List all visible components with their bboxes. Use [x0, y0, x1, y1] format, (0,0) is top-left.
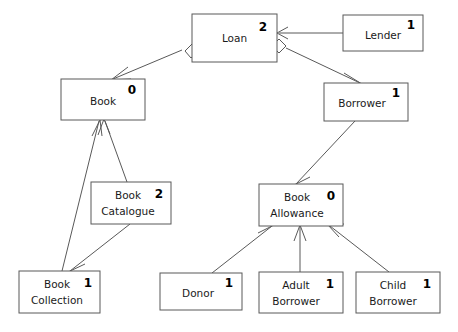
class-name-adult-borrower-line1: Adult [282, 279, 309, 291]
class-name-donor: Donor [182, 287, 215, 299]
edge-donor-book-allowance [212, 219, 274, 273]
edge-book-catalogue-book-collection [68, 224, 130, 278]
class-node-book-collection[interactable]: Book Collection 1 [19, 271, 100, 313]
edge-child-borrower-book-allowance [328, 224, 389, 272]
class-name-borrower: Borrower [338, 97, 386, 109]
uml-class-diagram: Loan 2 Lender 1 Book 0 Borrower 1 [0, 0, 458, 332]
edge-loan-book [111, 44, 198, 80]
edge-lender-loan [277, 27, 343, 39]
class-name-adult-borrower-line2: Borrower [272, 295, 320, 307]
class-node-child-borrower[interactable]: Child Borrower 1 [356, 272, 440, 313]
edge-adult-borrower-book-allowance [294, 225, 306, 272]
class-name-book-allowance-line1: Book [284, 191, 311, 203]
multiplicity-donor: 1 [225, 276, 233, 290]
class-name-book-catalogue-line2: Catalogue [101, 205, 154, 217]
edge-layer [62, 27, 389, 278]
class-name-book-collection-line1: Book [44, 278, 71, 290]
multiplicity-borrower: 1 [392, 86, 400, 100]
multiplicity-child-borrower: 1 [423, 277, 431, 291]
multiplicity-loan: 2 [259, 20, 267, 34]
class-name-book-allowance-line2: Allowance [270, 207, 323, 219]
multiplicity-book-collection: 1 [84, 276, 92, 290]
class-node-book-allowance[interactable]: Book Allowance 0 [259, 184, 343, 226]
class-node-book[interactable]: Book 0 [61, 79, 145, 120]
class-name-loan: Loan [222, 32, 247, 44]
class-name-book: Book [90, 95, 117, 107]
node-layer: Loan 2 Lender 1 Book 0 Borrower 1 [19, 14, 440, 313]
class-name-book-catalogue-line1: Book [115, 189, 142, 201]
multiplicity-adult-borrower: 1 [326, 277, 334, 291]
class-name-lender: Lender [365, 29, 402, 41]
edge-book-catalogue-book [98, 119, 127, 182]
class-name-child-borrower-line2: Borrower [369, 295, 417, 307]
multiplicity-book: 0 [128, 83, 136, 97]
multiplicity-lender: 1 [407, 18, 415, 32]
edge-borrower-book-allowance [294, 121, 355, 191]
class-name-child-borrower-line1: Child [380, 279, 407, 291]
class-node-loan[interactable]: Loan 2 [192, 14, 277, 62]
class-node-book-catalogue[interactable]: Book Catalogue 2 [91, 182, 171, 224]
multiplicity-book-allowance: 0 [327, 189, 335, 203]
class-node-adult-borrower[interactable]: Adult Borrower 1 [259, 272, 343, 313]
class-node-borrower[interactable]: Borrower 1 [324, 83, 408, 121]
class-node-donor[interactable]: Donor 1 [160, 273, 242, 310]
multiplicity-book-catalogue: 2 [155, 187, 163, 201]
class-node-lender[interactable]: Lender 1 [343, 15, 423, 51]
class-name-book-collection-line2: Collection [31, 294, 83, 306]
